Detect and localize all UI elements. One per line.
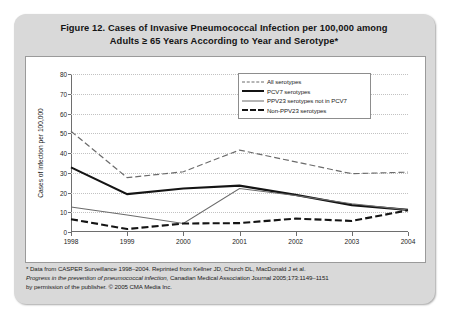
footnote-line-2: Progress in the prevention of pneumococc…: [26, 273, 424, 282]
x-tick-mark: [71, 232, 72, 236]
legend-item: All serotypes: [242, 77, 366, 87]
y-tick-label: 80: [60, 71, 67, 78]
legend-swatch-icon: [242, 97, 264, 105]
legend-label: PPV23 serotypes not in PCV7: [267, 97, 347, 104]
legend-swatch-icon: [242, 78, 264, 86]
y-tick-label: 70: [60, 90, 67, 97]
x-tick-mark: [183, 232, 184, 236]
figure-title-line1: Figure 12. Cases of Invasive Pneumococca…: [60, 23, 387, 33]
x-tick-mark: [240, 232, 241, 236]
legend-item: PCV7 serotypes: [242, 87, 366, 97]
y-tick-label: 30: [60, 169, 67, 176]
footnote-citation-rest: Canadian Medical Association Journal 200…: [168, 274, 328, 281]
x-tick-mark: [127, 232, 128, 236]
figure-footnotes: * Data from CASPER Surveillance 1998–200…: [26, 264, 424, 292]
x-tick-label: 1998: [64, 238, 79, 245]
series-line: [71, 131, 408, 177]
chart-panel: Cases of infection per 100,000 010203040…: [25, 56, 426, 263]
y-tick-label: 60: [60, 110, 67, 117]
legend-swatch-icon: [242, 87, 264, 95]
legend-label: PCV7 serotypes: [267, 88, 310, 95]
x-tick-label: 2000: [176, 238, 191, 245]
figure-card: Figure 12. Cases of Invasive Pneumococca…: [14, 14, 435, 304]
x-tick-mark: [352, 232, 353, 236]
legend-label: All serotypes: [267, 78, 301, 85]
footnote-line-3: by permission of the publisher. © 2005 C…: [26, 282, 424, 291]
y-tick-label: 10: [60, 209, 67, 216]
x-tick-label: 2001: [232, 238, 247, 245]
legend-item: Non-PPV23 serotypes: [242, 106, 366, 116]
x-tick-label: 2002: [288, 238, 303, 245]
y-tick-label: 0: [63, 229, 67, 236]
footnote-citation-title: Progress in the prevention of pneumococc…: [26, 274, 168, 281]
y-axis-title: Cases of infection per 100,000: [34, 74, 46, 232]
y-tick-label: 50: [60, 130, 67, 137]
x-tick-label: 1999: [120, 238, 135, 245]
x-tick-mark: [296, 232, 297, 236]
x-tick-mark: [408, 232, 409, 236]
figure-title: Figure 12. Cases of Invasive Pneumococca…: [44, 22, 404, 48]
legend-item: PPV23 serotypes not in PCV7: [242, 96, 366, 106]
legend-swatch-icon: [242, 106, 264, 114]
footnote-line-1: * Data from CASPER Surveillance 1998–200…: [26, 264, 424, 273]
series-line: [71, 210, 408, 229]
legend-label: Non-PPV23 serotypes: [267, 107, 326, 114]
x-tick-label: 2003: [344, 238, 359, 245]
y-tick-label: 40: [60, 150, 67, 157]
chart-legend: All serotypesPCV7 serotypesPPV23 serotyp…: [238, 73, 371, 119]
x-tick-label: 2004: [401, 238, 416, 245]
y-tick-label: 20: [60, 189, 67, 196]
figure-title-line2: Adults ≥ 65 Years According to Year and …: [110, 36, 338, 46]
